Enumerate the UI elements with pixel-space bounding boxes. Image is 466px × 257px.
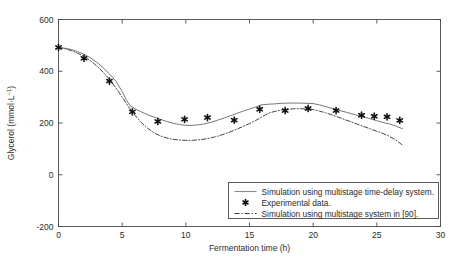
chart-legend: Simulation using multistage time-delay s…	[229, 183, 439, 219]
x-tick-label: 10	[181, 230, 191, 240]
y-tick-label: 400	[39, 66, 53, 76]
y-tick-label: -200	[36, 222, 53, 232]
y-axis-title: Glycerol (mmol·L−1)	[6, 86, 16, 161]
figure-container: 051015202530-2000200400600 Simulation us…	[0, 0, 466, 257]
legend-label: Experimental data.	[262, 198, 331, 208]
glycerol-fermentation-chart: 051015202530-2000200400600 Simulation us…	[0, 0, 466, 257]
y-tick-label: 0	[49, 170, 54, 180]
legend-label: Simulation using multistage system in [9…	[262, 209, 419, 219]
x-tick-label: 0	[56, 230, 61, 240]
x-tick-label: 5	[120, 230, 125, 240]
y-tick-label: 200	[39, 118, 53, 128]
y-tick-label: 600	[39, 15, 53, 25]
x-tick-label: 20	[308, 230, 318, 240]
x-tick-label: 25	[372, 230, 382, 240]
x-tick-label: 30	[436, 230, 446, 240]
x-tick-label: 15	[245, 230, 255, 240]
legend-label: Simulation using multistage time-delay s…	[262, 187, 434, 197]
x-axis-title: Fermentation time (h)	[209, 243, 290, 253]
